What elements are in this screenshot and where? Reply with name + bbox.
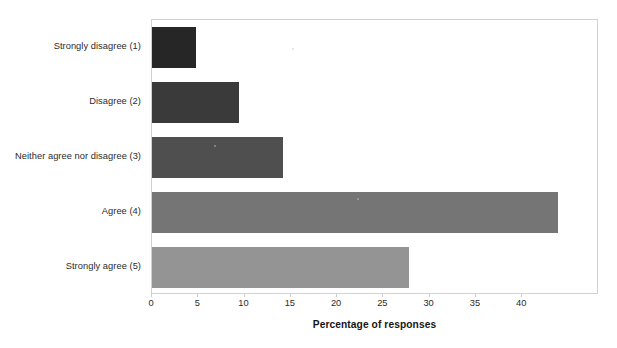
x-axis-tick <box>244 294 245 297</box>
x-axis-tick-label: 25 <box>362 298 402 308</box>
bar-row <box>152 20 597 75</box>
bar-chart-figure: Strongly disagree (1) Disagree (2) Neith… <box>0 0 617 348</box>
x-axis-tick-label: 0 <box>131 298 171 308</box>
scan-speckle <box>292 48 294 50</box>
bar-neither-agree-nor-disagree <box>152 137 283 178</box>
x-axis-tick-label: 10 <box>224 298 264 308</box>
plot-area <box>151 19 598 294</box>
bar-row <box>152 130 597 185</box>
bar-strongly-disagree <box>152 27 196 68</box>
bar-disagree <box>152 82 239 123</box>
x-axis-tick-label: 15 <box>270 298 310 308</box>
scan-speckle <box>357 198 359 200</box>
bar-row <box>152 185 597 240</box>
x-axis-tick-label: 40 <box>501 298 541 308</box>
x-axis-tick <box>197 294 198 297</box>
x-axis-tick <box>151 294 152 297</box>
bar-strongly-agree <box>152 247 409 288</box>
x-axis-tick-label: 20 <box>316 298 356 308</box>
bar-row <box>152 75 597 130</box>
x-axis-tick <box>290 294 291 297</box>
bars-layer <box>152 20 597 293</box>
category-label: Disagree (2) <box>0 74 141 129</box>
bar-row <box>152 240 597 295</box>
x-axis-tick-label: 35 <box>455 298 495 308</box>
value-axis: 0510152025303540 <box>151 294 598 314</box>
x-axis-title: Percentage of responses <box>151 319 598 330</box>
x-axis-tick <box>336 294 337 297</box>
scan-speckle <box>214 145 216 147</box>
x-axis-tick <box>475 294 476 297</box>
x-axis-tick <box>521 294 522 297</box>
category-label: Strongly agree (5) <box>0 239 141 294</box>
category-label: Neither agree nor disagree (3) <box>0 129 141 184</box>
category-label: Strongly disagree (1) <box>0 19 141 74</box>
x-axis-tick <box>429 294 430 297</box>
category-axis: Strongly disagree (1) Disagree (2) Neith… <box>0 19 147 294</box>
x-axis-tick <box>382 294 383 297</box>
category-label: Agree (4) <box>0 184 141 239</box>
bar-agree <box>152 192 558 233</box>
x-axis-tick-label: 5 <box>177 298 217 308</box>
x-axis-tick-label: 30 <box>409 298 449 308</box>
